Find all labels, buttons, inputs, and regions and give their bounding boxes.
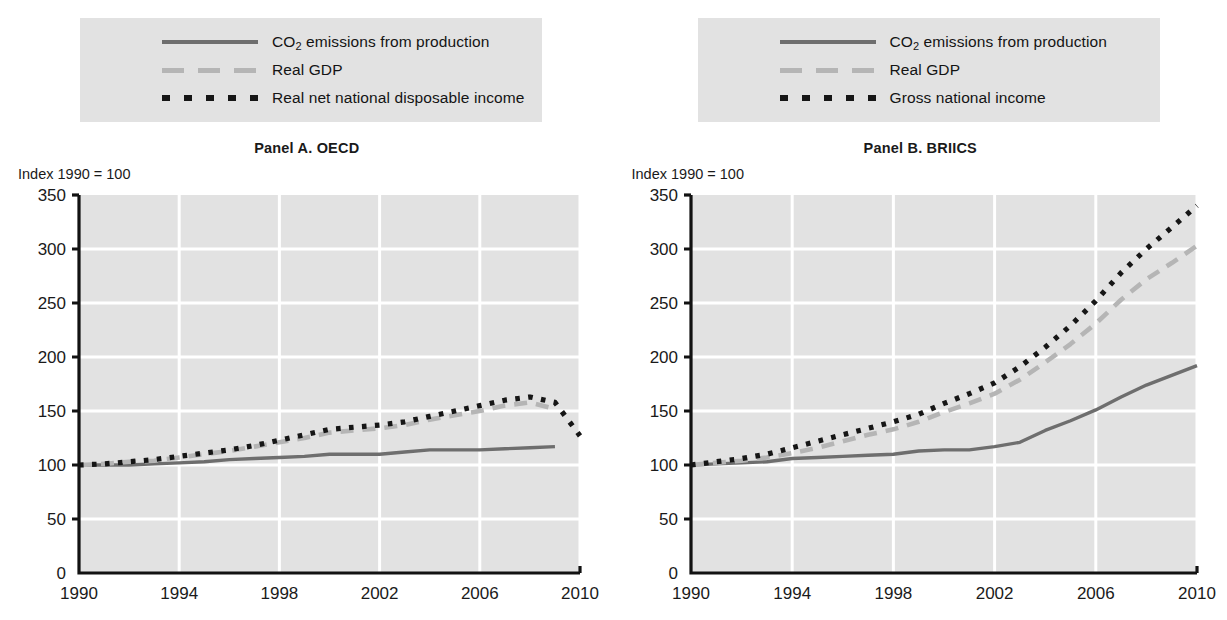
y-tick-label: 250 xyxy=(38,294,66,313)
x-tick-label: 1990 xyxy=(60,584,98,603)
panel-b: CO2 emissions from production Real GDP G… xyxy=(614,0,1227,620)
x-tick-label: 2006 xyxy=(1076,584,1114,603)
y-tick-label: 150 xyxy=(38,402,66,421)
x-tick-label: 1994 xyxy=(773,584,811,603)
plot-background xyxy=(79,195,580,573)
x-tick-label: 1998 xyxy=(874,584,912,603)
panel-a: CO2 emissions from production Real GDP R… xyxy=(0,0,614,620)
plot-canvas: 0501001502002503003501990199419982002200… xyxy=(0,0,613,620)
x-tick-label: 1990 xyxy=(672,584,710,603)
y-tick-label: 300 xyxy=(38,240,66,259)
chart-panels-container: CO2 emissions from production Real GDP R… xyxy=(0,0,1227,620)
plot-background xyxy=(691,195,1197,573)
panel-a-plot: 0501001502002503003501990199419982002200… xyxy=(0,0,613,620)
x-tick-label: 2002 xyxy=(361,584,399,603)
y-tick-label: 0 xyxy=(668,564,677,583)
y-tick-label: 50 xyxy=(659,510,678,529)
y-tick-label: 100 xyxy=(38,456,66,475)
plot-canvas: 0501001502002503003501990199419982002200… xyxy=(614,0,1227,620)
x-tick-label: 2002 xyxy=(975,584,1013,603)
y-tick-label: 300 xyxy=(649,240,677,259)
x-tick-label: 2010 xyxy=(1178,584,1216,603)
y-tick-label: 350 xyxy=(38,186,66,205)
y-tick-label: 250 xyxy=(649,294,677,313)
x-tick-label: 1994 xyxy=(160,584,198,603)
panel-b-plot: 0501001502002503003501990199419982002200… xyxy=(614,0,1227,620)
x-tick-label: 1998 xyxy=(260,584,298,603)
y-tick-label: 200 xyxy=(649,348,677,367)
y-tick-label: 200 xyxy=(38,348,66,367)
x-tick-label: 2006 xyxy=(461,584,499,603)
y-tick-label: 100 xyxy=(649,456,677,475)
y-tick-label: 150 xyxy=(649,402,677,421)
x-tick-label: 2010 xyxy=(561,584,599,603)
y-tick-label: 50 xyxy=(47,510,66,529)
y-tick-label: 350 xyxy=(649,186,677,205)
y-tick-label: 0 xyxy=(57,564,66,583)
